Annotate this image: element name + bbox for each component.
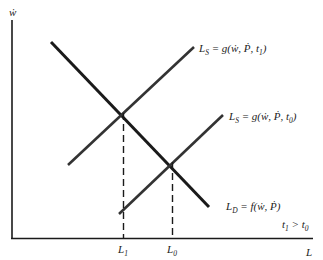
tick-label-l1: L1 [117,243,128,258]
time-condition-note: t1 > t0 [282,218,309,233]
x-axis-label: L [305,246,312,258]
tick-label-l0: L0 [166,243,177,258]
supply-t1-label: LS = g(ẇ, Ṗ, t1) [198,42,267,57]
supply-t0-label: LS = g(ẇ, Ṗ, t0) [228,110,297,125]
demand-curve [51,42,209,207]
labor-market-diagram: ẇ L LS = g(ẇ, Ṗ, t1) LS = g(ẇ, Ṗ, t0) LD… [0,0,323,260]
supply-curve-t1 [68,47,194,165]
demand-label: LD = f(ẇ, Ṗ) [225,200,281,215]
y-axis-label: ẇ [9,6,17,18]
